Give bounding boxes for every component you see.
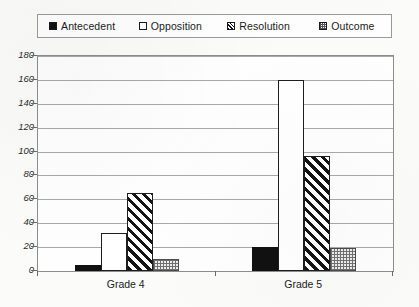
gridline xyxy=(38,152,393,153)
legend-item-outcome: Outcome xyxy=(303,20,391,32)
legend-label: Resolution xyxy=(239,20,290,32)
y-axis-tick-label: 0 xyxy=(6,264,34,275)
y-axis-tick-mark xyxy=(31,198,37,199)
x-axis-tick-mark xyxy=(215,271,216,276)
y-axis-tick-label: 20 xyxy=(6,240,34,251)
chart-legend: Antecedent Opposition Resolution Outcome xyxy=(37,14,392,38)
bar-outcome-grade-4 xyxy=(153,259,179,271)
bar-antecedent-grade-4 xyxy=(75,265,101,271)
x-axis-label-grade-4: Grade 4 xyxy=(107,278,145,290)
legend-swatch-crosshatch-icon xyxy=(319,22,327,30)
x-axis-label-grade-5: Grade 5 xyxy=(284,278,322,290)
gridline xyxy=(38,128,393,129)
plot-area xyxy=(37,55,394,272)
gridline xyxy=(38,199,393,200)
gridline xyxy=(38,80,393,81)
y-axis-tick-mark xyxy=(31,79,37,80)
gridline xyxy=(38,104,393,105)
y-axis-tick-label: 120 xyxy=(6,121,34,132)
bar-opposition-grade-4 xyxy=(101,233,127,271)
legend-item-resolution: Resolution xyxy=(215,20,303,32)
y-axis-tick-label: 80 xyxy=(6,168,34,179)
legend-label: Opposition xyxy=(151,20,202,32)
y-axis-tick-label: 60 xyxy=(6,192,34,203)
gridline xyxy=(38,223,393,224)
y-axis-tick-label: 100 xyxy=(6,145,34,156)
legend-item-antecedent: Antecedent xyxy=(38,20,126,32)
bar-outcome-grade-5 xyxy=(330,248,356,271)
legend-label: Antecedent xyxy=(61,20,115,32)
chart-figure: Antecedent Opposition Resolution Outcome… xyxy=(0,0,419,307)
legend-swatch-solid-icon xyxy=(49,22,57,30)
x-axis-tick-mark xyxy=(392,271,393,276)
gridline xyxy=(38,175,393,176)
y-axis-tick-mark xyxy=(31,55,37,56)
bar-opposition-grade-5 xyxy=(278,80,304,271)
y-axis-tick-mark xyxy=(31,127,37,128)
y-axis-tick-mark xyxy=(31,151,37,152)
y-axis-tick-label: 40 xyxy=(6,216,34,227)
y-axis-tick-label: 180 xyxy=(6,49,34,60)
legend-swatch-hatch-icon xyxy=(227,22,235,30)
y-axis-tick-label: 160 xyxy=(6,73,34,84)
legend-label: Outcome xyxy=(331,20,374,32)
y-axis-tick-mark xyxy=(31,246,37,247)
y-axis-tick-mark xyxy=(31,222,37,223)
y-axis-tick-label: 140 xyxy=(6,97,34,108)
gridline xyxy=(38,56,393,57)
legend-swatch-white-icon xyxy=(139,22,147,30)
legend-item-opposition: Opposition xyxy=(126,20,214,32)
bar-antecedent-grade-5 xyxy=(252,247,278,271)
bar-resolution-grade-5 xyxy=(304,156,330,271)
x-axis-tick-mark xyxy=(37,271,38,276)
y-axis-tick-mark xyxy=(31,174,37,175)
bar-resolution-grade-4 xyxy=(127,193,153,271)
y-axis-tick-mark xyxy=(31,103,37,104)
